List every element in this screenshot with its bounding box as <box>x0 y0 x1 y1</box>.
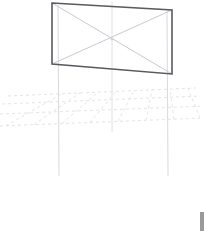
grid-depth-1 <box>34 93 80 125</box>
grid-depth-6 <box>170 89 174 119</box>
grid-row-1 <box>2 96 202 104</box>
grid-depth-4 <box>118 91 134 122</box>
post-left <box>58 5 59 176</box>
grid-depth-lines <box>6 88 200 125</box>
viewport-3d[interactable] <box>0 0 204 232</box>
grid-row-lines <box>0 88 204 126</box>
scene-canvas[interactable] <box>0 0 204 232</box>
vertical-scrollbar-thumb[interactable] <box>200 212 204 231</box>
grid-row-3 <box>0 118 204 126</box>
grid-depth-7 <box>188 88 200 118</box>
grid-depth-5 <box>146 90 152 120</box>
vertical-scrollbar-track[interactable] <box>200 0 204 232</box>
post-right <box>167 11 168 176</box>
grid-depth-2 <box>62 92 98 123</box>
grid-depth-0 <box>6 94 62 126</box>
